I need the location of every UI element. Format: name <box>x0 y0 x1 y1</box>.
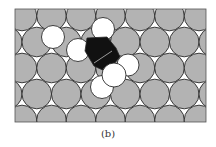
substrate-atom <box>125 1 155 31</box>
substrate-atom <box>0 53 7 83</box>
substrate-atom <box>184 1 214 31</box>
figure-caption: (b) <box>0 128 216 139</box>
substrate-atom <box>169 79 199 109</box>
substrate-atom <box>184 53 214 83</box>
substrate-atom <box>7 53 37 83</box>
substrate-atom <box>37 53 67 83</box>
hydrogen-atom <box>42 26 65 49</box>
substrate-atom <box>140 27 170 57</box>
diagram-frame <box>0 1 216 135</box>
substrate-atom <box>214 1 216 31</box>
substrate-atom <box>214 53 216 83</box>
substrate-atom <box>7 1 37 31</box>
substrate-atom <box>22 79 52 109</box>
substrate-atom <box>155 1 185 31</box>
surface-adsorbate-diagram <box>0 0 216 147</box>
substrate-atom <box>140 79 170 109</box>
substrate-atom <box>155 53 185 83</box>
substrate-atom <box>51 79 81 109</box>
hydrogen-atom <box>102 63 126 87</box>
substrate-atom <box>169 27 199 57</box>
substrate-atom <box>0 1 7 31</box>
